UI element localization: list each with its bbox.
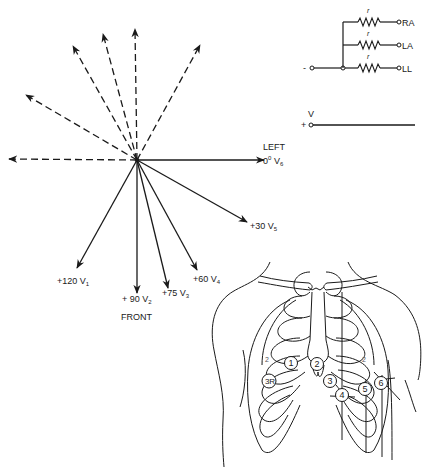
dashed-arrow-neg-v3: [103, 34, 137, 160]
resistor-ra: r RA: [343, 7, 415, 28]
electrode-v4: 4: [336, 389, 349, 402]
lead-label-v4: +60 V4: [193, 274, 221, 285]
electrode-v1: 1: [285, 357, 298, 370]
wilson-central-terminal-circuit: r RA r LA r LL - V +: [301, 7, 415, 130]
second-intercostal-marker-left: 2: [362, 356, 366, 363]
right-ribs: [248, 296, 310, 453]
sternum: [308, 292, 329, 362]
torso-outline-left: [212, 262, 270, 467]
svg-text:4: 4: [339, 390, 344, 400]
resistor-ll: r LL: [345, 53, 412, 74]
exploring-electrode-label: V: [308, 109, 314, 119]
electrode-v2: 2: [311, 358, 324, 371]
electrode-v6: 6: [375, 377, 388, 390]
lead-label-v6: 00 V6: [263, 155, 284, 167]
resistor-label-ll: r: [367, 53, 370, 60]
dashed-arrow-neg-v5: [26, 95, 137, 160]
right-arm-line: [240, 350, 245, 407]
terminal-label-la: LA: [402, 41, 413, 51]
front-direction-label: FRONT: [121, 312, 152, 322]
arrow-v3: [137, 160, 168, 288]
axis-origin: [135, 158, 139, 162]
left-arm-line: [405, 380, 416, 412]
lead-label-v1: +120 V1: [57, 276, 90, 287]
resistor-label-ra: r: [367, 7, 370, 14]
negative-lead-directions: [9, 29, 200, 160]
svg-text:6: 6: [378, 378, 383, 388]
lead-label-v3: +75 V3: [162, 288, 190, 299]
positive-terminal: [309, 123, 313, 127]
electrode-v3: 3: [324, 375, 337, 388]
svg-text:2: 2: [314, 359, 319, 369]
left-clavicle: [324, 276, 378, 290]
dashed-arrow-neg-v1: [137, 45, 200, 160]
svg-text:3R: 3R: [265, 377, 275, 386]
dashed-arrow-neg-v6: [9, 159, 137, 160]
negative-symbol: -: [303, 63, 306, 73]
positive-symbol: +: [301, 120, 306, 130]
resistor-la: r LA: [343, 30, 413, 51]
lead-label-v5: +30 V5: [250, 221, 278, 232]
terminal-label-ll: LL: [402, 64, 412, 74]
arrow-v1: [77, 160, 137, 268]
svg-text:1: 1: [288, 358, 293, 368]
precordial-axis-diagram: LEFT 00 V6 +30 V5 +60 V4 +75 V3 + 90 V2 …: [9, 29, 286, 322]
second-intercostal-marker-right: 2: [265, 356, 269, 363]
dashed-arrow-neg-v4: [73, 46, 137, 160]
right-clavicle: [258, 276, 312, 290]
left-ribs: [326, 296, 388, 453]
left-direction-label: LEFT: [263, 142, 286, 152]
dashed-arrow-neg-v2: [135, 29, 137, 160]
electrode-v5: 5: [359, 383, 372, 396]
negative-terminal: [310, 66, 314, 70]
electrode-v3r: 3R: [262, 374, 276, 388]
svg-text:5: 5: [362, 384, 367, 394]
svg-text:3: 3: [327, 376, 332, 386]
lead-label-v2: + 90 V2: [122, 294, 152, 305]
positive-lead-directions: [77, 160, 264, 293]
resistor-label-la: r: [367, 30, 370, 37]
terminal-label-ra: RA: [402, 18, 415, 28]
ecg-lead-diagram: LEFT 00 V6 +30 V5 +60 V4 +75 V3 + 90 V2 …: [0, 0, 428, 467]
